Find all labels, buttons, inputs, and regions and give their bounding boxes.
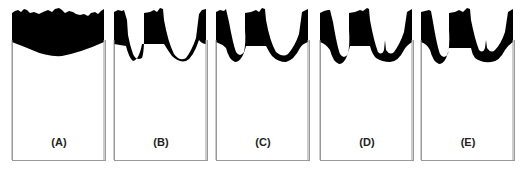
panel-b-label: (B) — [114, 136, 208, 148]
panel-c-label: (C) — [216, 136, 310, 148]
panel-c: (C) — [216, 0, 310, 162]
panel-a-label: (A) — [12, 136, 106, 148]
panel-e-label: (E) — [421, 136, 515, 148]
panel-a: (A) — [12, 0, 106, 162]
panel-b: (B) — [114, 0, 208, 162]
panel-d-label: (D) — [320, 136, 414, 148]
panel-e: (E) — [421, 0, 515, 162]
panel-d: (D) — [320, 0, 414, 162]
